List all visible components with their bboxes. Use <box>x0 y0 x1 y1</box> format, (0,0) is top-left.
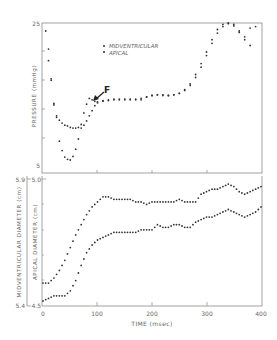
data-point-apical <box>67 125 69 127</box>
data-point-mid <box>244 36 246 38</box>
data-point-apical <box>56 115 58 117</box>
data-point-mid <box>233 186 235 188</box>
data-point-apical <box>86 120 88 122</box>
data-point-apical <box>88 248 90 250</box>
data-point-apical <box>249 214 251 216</box>
data-point-mid <box>252 190 254 192</box>
data-point-apical <box>121 231 123 233</box>
data-point-mid <box>138 201 140 203</box>
data-point-apical <box>53 295 55 297</box>
data-point-mid <box>97 201 99 203</box>
data-point-mid <box>53 277 55 279</box>
data-point-mid <box>173 201 175 203</box>
data-point-apical <box>195 221 197 223</box>
data-point-apical <box>162 95 164 97</box>
data-point-apical <box>189 85 191 87</box>
data-point-mid <box>227 183 229 185</box>
data-point-mid <box>80 124 82 126</box>
data-point-mid <box>200 193 202 195</box>
x-axis-label: TIME (msec) <box>130 320 172 327</box>
diameter-series <box>42 183 262 302</box>
data-point-apical <box>94 242 96 244</box>
x-tick-200: 200 <box>146 310 158 317</box>
data-point-mid <box>200 63 202 65</box>
data-point-mid <box>94 100 96 102</box>
data-point-apical <box>197 220 199 222</box>
data-point-mid <box>219 187 221 189</box>
legend-apical-marker <box>103 51 105 53</box>
data-point-mid <box>88 98 90 100</box>
data-point-apical <box>181 225 183 227</box>
data-point-apical <box>184 226 186 228</box>
data-point-apical <box>203 218 205 220</box>
data-point-apical <box>135 231 137 233</box>
data-point-apical <box>140 229 142 231</box>
annotation-f-label: F <box>104 85 110 95</box>
data-point-mid <box>80 224 82 226</box>
data-point-mid <box>217 188 219 190</box>
data-point-apical <box>91 110 93 112</box>
data-point-mid <box>135 201 137 203</box>
data-point-mid <box>222 24 224 26</box>
data-point-mid <box>64 259 66 261</box>
data-point-apical <box>244 216 246 218</box>
data-point-apical <box>255 26 257 28</box>
data-point-apical <box>64 124 66 126</box>
data-point-mid <box>159 201 161 203</box>
data-point-apical <box>168 226 170 228</box>
data-point-apical <box>211 42 213 44</box>
data-point-mid <box>121 198 123 200</box>
data-point-mid <box>83 219 85 221</box>
data-point-apical <box>225 210 227 212</box>
data-point-mid <box>91 99 93 101</box>
data-point-apical <box>238 214 240 216</box>
data-point-mid <box>67 158 69 160</box>
data-point-apical <box>48 48 50 50</box>
data-point-apical <box>127 231 129 233</box>
data-point-mid <box>61 150 63 152</box>
data-point-apical <box>124 231 126 233</box>
data-point-apical <box>170 225 172 227</box>
data-point-apical <box>97 102 99 104</box>
data-point-mid <box>176 200 178 202</box>
legend: MIDVENTRICULAR APICAL <box>103 43 158 56</box>
data-point-apical <box>168 95 170 97</box>
data-point-apical <box>157 224 159 226</box>
data-point-apical <box>97 239 99 241</box>
data-point-apical <box>148 229 150 231</box>
data-point-apical <box>241 215 243 217</box>
data-point-apical <box>118 231 120 233</box>
data-point-apical <box>118 98 120 100</box>
data-point-mid <box>64 156 66 158</box>
data-point-mid <box>157 201 159 203</box>
data-point-mid <box>140 201 142 203</box>
data-point-apical <box>233 211 235 213</box>
data-point-apical <box>48 298 50 300</box>
data-point-apical <box>59 295 61 297</box>
data-point-apical <box>176 224 178 226</box>
data-point-mid <box>78 138 80 140</box>
data-point-apical <box>214 215 216 217</box>
data-point-mid <box>56 273 58 275</box>
data-point-apical <box>217 32 219 34</box>
data-point-apical <box>238 32 240 34</box>
data-point-apical <box>72 285 74 287</box>
data-point-mid <box>151 201 153 203</box>
data-point-apical <box>247 215 249 217</box>
data-point-mid <box>154 201 156 203</box>
data-point-mid <box>48 282 50 284</box>
data-point-apical <box>94 105 96 107</box>
pressure-bottom-label: 5 <box>36 162 40 169</box>
data-point-apical <box>91 244 93 246</box>
data-point-mid <box>42 282 44 284</box>
data-point-apical <box>233 25 235 27</box>
data-point-apical <box>146 229 148 231</box>
data-point-mid <box>102 196 104 198</box>
data-point-apical <box>61 122 63 124</box>
data-point-mid <box>118 198 120 200</box>
data-point-apical <box>143 229 145 231</box>
data-point-mid <box>59 270 61 272</box>
data-point-apical <box>132 231 134 233</box>
data-point-mid <box>67 253 69 255</box>
data-point-apical <box>206 216 208 218</box>
